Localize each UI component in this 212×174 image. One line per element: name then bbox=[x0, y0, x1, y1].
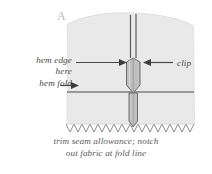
zigzag-bottom-edge bbox=[66, 124, 194, 132]
label-hem-edge: hem edge here bbox=[9, 55, 72, 77]
panel-letter-a: A bbox=[57, 9, 66, 24]
label-clip: clip bbox=[177, 58, 191, 69]
label-hem-edge-line1: hem edge bbox=[9, 55, 72, 66]
label-hem-edge-line2: here bbox=[9, 66, 72, 77]
figure-caption: trim seam allowance; notch out fabric at… bbox=[0, 136, 212, 159]
seam-allowance-block-group bbox=[127, 58, 141, 93]
pinked-edge-group bbox=[66, 124, 195, 132]
figure-caption-line2: out fabric at fold line bbox=[0, 148, 212, 160]
sewing-diagram-figure: A hem edge here hem fold clip trim seam … bbox=[0, 0, 212, 174]
figure-caption-line1: trim seam allowance; notch bbox=[0, 136, 212, 148]
label-hem-fold: hem fold bbox=[9, 78, 72, 89]
lower-seam-tail-group bbox=[129, 93, 138, 127]
